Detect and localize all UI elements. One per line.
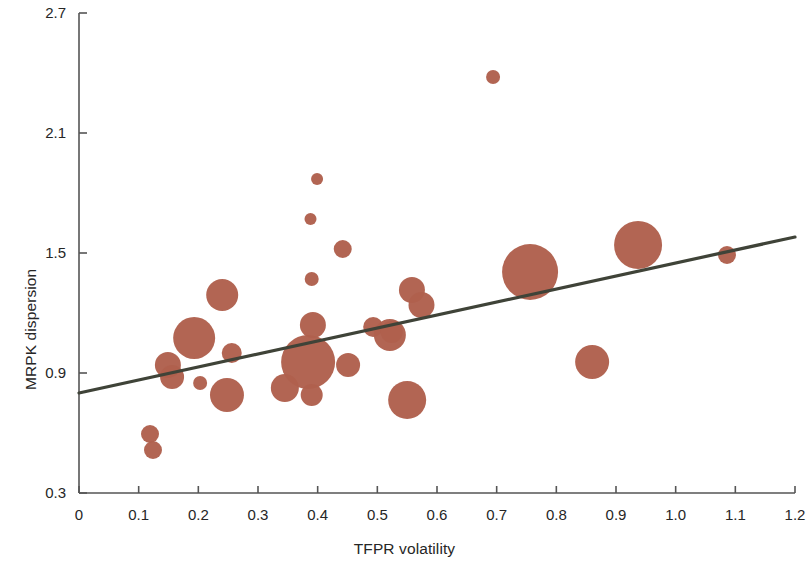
y-tick-label: 0.3 xyxy=(45,484,66,501)
data-point-bubble xyxy=(334,240,352,258)
x-tick-label: 0.3 xyxy=(248,506,269,523)
axes-group xyxy=(79,13,795,493)
data-point-bubble xyxy=(193,376,207,390)
data-point-bubble xyxy=(301,384,323,406)
data-point-bubble xyxy=(336,353,360,377)
scatter-plot-canvas: 00.10.20.30.40.50.60.70.80.91.01.11.2 0.… xyxy=(0,0,809,570)
x-tick-label: 0.9 xyxy=(606,506,627,523)
x-tick-label: 0.4 xyxy=(307,506,328,523)
data-points-group xyxy=(141,70,736,459)
x-axis-ticks: 00.10.20.30.40.50.60.70.80.91.01.11.2 xyxy=(75,486,806,523)
trendline-group xyxy=(79,237,795,393)
y-tick-label: 1.5 xyxy=(45,244,66,261)
data-point-bubble xyxy=(173,317,215,359)
data-point-bubble xyxy=(614,221,662,269)
y-axis-title: MRPK dispersion xyxy=(22,269,40,390)
x-tick-label: 0.2 xyxy=(188,506,209,523)
data-point-bubble xyxy=(160,365,184,389)
data-point-bubble xyxy=(305,213,317,225)
y-tick-label: 0.9 xyxy=(45,364,66,381)
x-tick-label: 1.2 xyxy=(785,506,806,523)
x-tick-label: 0.8 xyxy=(546,506,567,523)
y-axis-ticks: 0.30.91.52.12.7 xyxy=(45,4,87,501)
x-tick-label: 0.1 xyxy=(128,506,149,523)
data-point-bubble xyxy=(210,378,244,412)
regression-trendline xyxy=(79,237,795,393)
x-tick-label: 1.0 xyxy=(665,506,686,523)
data-point-bubble xyxy=(486,70,500,84)
x-tick-label: 0.5 xyxy=(367,506,388,523)
data-point-bubble xyxy=(141,425,159,443)
y-tick-label: 2.1 xyxy=(45,124,66,141)
data-point-bubble xyxy=(311,173,323,185)
bubble-chart-figure: 00.10.20.30.40.50.60.70.80.91.01.11.2 0.… xyxy=(0,0,809,570)
data-point-bubble xyxy=(305,272,319,286)
y-tick-label: 2.7 xyxy=(45,4,66,21)
data-point-bubble xyxy=(300,312,326,338)
x-tick-label: 0.6 xyxy=(427,506,448,523)
x-tick-label: 1.1 xyxy=(725,506,746,523)
data-point-bubble xyxy=(388,381,426,419)
x-axis-title: TFPR volatility xyxy=(0,540,809,558)
data-point-bubble xyxy=(575,345,609,379)
data-point-bubble xyxy=(718,246,736,264)
x-tick-label: 0.7 xyxy=(486,506,507,523)
data-point-bubble xyxy=(206,279,238,311)
data-point-bubble xyxy=(144,441,162,459)
data-point-bubble xyxy=(408,292,434,318)
x-tick-label: 0 xyxy=(75,506,83,523)
